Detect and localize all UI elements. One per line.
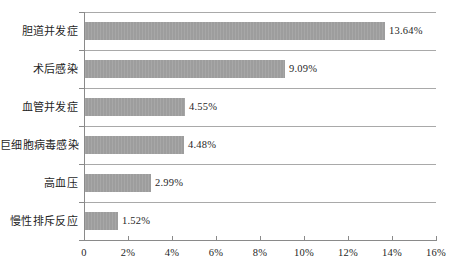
y-axis-tick	[79, 202, 84, 203]
y-axis-tick	[79, 50, 84, 51]
bar-value-2: 4.55%	[189, 98, 217, 116]
x-axis-label-8: 16%	[426, 246, 446, 259]
x-axis-label-2: 4%	[165, 246, 179, 259]
y-axis-tick	[79, 88, 84, 89]
y-axis-tick	[79, 126, 84, 127]
category-label-5: 慢性排斥反应	[0, 212, 78, 230]
x-axis-tick	[392, 236, 393, 241]
x-axis-label-0: 0	[81, 246, 86, 259]
gridline-1	[84, 50, 436, 51]
gridline-2	[84, 88, 436, 89]
y-axis-line	[84, 12, 85, 241]
plot-area	[84, 12, 436, 240]
gridline-0	[84, 12, 436, 13]
y-axis-tick	[79, 12, 84, 13]
bar-0	[85, 22, 385, 40]
category-label-2: 血管并发症	[0, 98, 78, 116]
x-axis-label-7: 14%	[382, 246, 402, 259]
x-axis-tick	[84, 236, 85, 241]
x-axis-label-6: 12%	[338, 246, 358, 259]
gridline-3	[84, 126, 436, 127]
x-axis-tick	[172, 236, 173, 241]
gridline-4	[84, 164, 436, 165]
category-label-0: 胆道并发症	[0, 22, 78, 40]
bar-value-1: 9.09%	[289, 60, 317, 78]
gridline-5	[84, 202, 436, 203]
x-axis-label-4: 8%	[253, 246, 267, 259]
x-axis-tick	[436, 236, 437, 241]
x-axis-tick	[128, 236, 129, 241]
bar-value-4: 2.99%	[155, 174, 183, 192]
x-axis-tick	[348, 236, 349, 241]
bar-2	[85, 98, 185, 116]
category-label-4: 高血压	[0, 174, 78, 192]
bar-3	[85, 136, 184, 154]
x-axis-tick	[216, 236, 217, 241]
x-axis-tick	[260, 236, 261, 241]
x-axis-label-1: 2%	[121, 246, 135, 259]
bar-chart: 胆道并发症 术后感染 血管并发症 巨细胞病毒感染 高血压 慢性排斥反应 13.6…	[0, 0, 450, 273]
bar-value-3: 4.48%	[188, 136, 216, 154]
x-axis-label-5: 10%	[294, 246, 314, 259]
x-axis-label-3: 6%	[209, 246, 223, 259]
bar-value-5: 1.52%	[122, 212, 150, 230]
bar-5	[85, 212, 118, 230]
category-label-1: 术后感染	[0, 60, 78, 78]
x-axis-tick	[304, 236, 305, 241]
y-axis-tick	[79, 164, 84, 165]
bar-4	[85, 174, 151, 192]
bar-value-0: 13.64%	[389, 22, 423, 40]
category-label-3: 巨细胞病毒感染	[0, 136, 78, 154]
bar-1	[85, 60, 285, 78]
